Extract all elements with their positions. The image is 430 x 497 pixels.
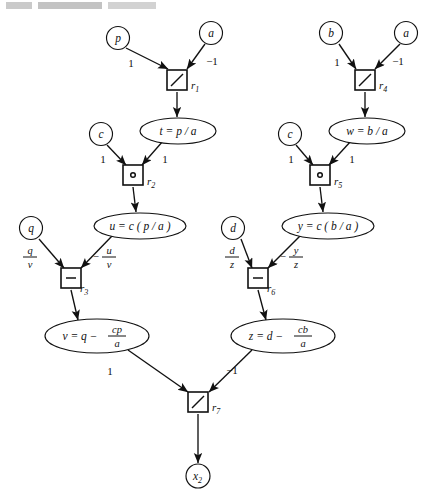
fraction-numerator: d <box>229 245 235 256</box>
node-y-label: y = c ( b / a ) <box>297 220 359 233</box>
node-z-label: z = d − <box>248 330 283 342</box>
node-d-label: d <box>230 222 236 234</box>
edge-r3-to-v <box>71 290 78 320</box>
node-w-label: w = b / a <box>346 125 388 137</box>
node-z-frac-numerator: cb <box>298 324 308 335</box>
node-v-label: v = q − <box>63 330 98 343</box>
node-q-label: q <box>28 222 34 235</box>
variable-nodes: p a b a c c q d x2 <box>20 22 418 489</box>
fraction-numerator: u <box>106 245 111 256</box>
edge-a-to-r1 <box>187 44 205 69</box>
fraction-numerator: q <box>27 245 32 256</box>
node-u-label: u = c ( p / a ) <box>109 220 170 233</box>
operator-r5-label: r5 <box>334 175 342 190</box>
edge-c2-to-r5 <box>296 145 313 165</box>
node-a1-label: a <box>208 27 214 39</box>
fraction-denominator: v <box>28 259 33 270</box>
node-b-label: b <box>328 27 334 39</box>
edge-label-c2-to-r5: 1 <box>288 153 294 165</box>
edge-label-d-to-r6: d z <box>225 245 239 270</box>
node-c1-label: c <box>98 128 103 140</box>
edge-label-w-to-r5: 1 <box>349 153 355 165</box>
edge-d-to-r6 <box>241 239 252 268</box>
fraction-sign: − <box>92 251 99 262</box>
edge-label-v-to-r7: 1 <box>107 365 113 377</box>
fraction-denominator: z <box>293 259 298 270</box>
edge-label-a2-to-r4: −1 <box>392 55 404 67</box>
fraction-denominator: v <box>107 259 112 270</box>
edge-label-c-to-r2: 1 <box>100 153 106 165</box>
edge-r2-to-u <box>133 187 136 212</box>
edge-label-z-to-r7: −1 <box>226 364 238 376</box>
computational-graph-figure: p a b a c c q d x2 t = p / a <box>0 0 430 497</box>
edge-label-p-to-r1: 1 <box>128 57 134 69</box>
edge-t-to-r2 <box>142 141 163 165</box>
fraction-sign: − <box>279 251 286 262</box>
edge-r6-to-z <box>258 290 266 320</box>
edge-r5-to-y <box>320 187 323 212</box>
graph-canvas: p a b a c c q d x2 t = p / a <box>0 0 430 497</box>
operator-r2-label: r2 <box>147 175 155 190</box>
operator-r6-label: r6 <box>267 282 275 297</box>
fraction-denominator: z <box>229 259 234 270</box>
node-z-frac-denominator: a <box>300 338 305 349</box>
edge-label-t-to-r2: 1 <box>162 153 168 165</box>
edge-label-a-to-r1: −1 <box>206 55 218 67</box>
node-p-label: p <box>114 32 121 45</box>
edge-label-q-to-r3: q v <box>23 245 37 270</box>
edge-v-to-r7 <box>128 350 188 392</box>
fraction-numerator: y <box>293 245 299 256</box>
edge-label-b-to-r4: 1 <box>334 56 340 68</box>
operator-r1-label: r1 <box>191 79 199 94</box>
edge-label-u-to-r3: − u v <box>92 245 116 270</box>
edge-label-y-to-r6: − y z <box>279 245 303 270</box>
node-a2-label: a <box>403 27 409 39</box>
node-v-frac-numerator: cp <box>112 324 122 335</box>
node-t-label: t = p / a <box>159 125 196 138</box>
node-c2-label: c <box>287 128 292 140</box>
node-v-frac-denominator: a <box>114 338 119 349</box>
edge-w-to-r5 <box>329 141 351 165</box>
operator-r4-label: r4 <box>379 79 387 94</box>
edge-q-to-r3 <box>39 239 64 268</box>
operator-r7-label: r7 <box>212 401 221 416</box>
operator-r5-multiply-box[interactable] <box>310 165 330 185</box>
operator-r3-label: r3 <box>80 282 88 297</box>
edge-b-to-r4 <box>339 44 356 69</box>
edge-c-to-r2 <box>107 145 126 165</box>
operator-r2-multiply-box[interactable] <box>123 165 143 185</box>
